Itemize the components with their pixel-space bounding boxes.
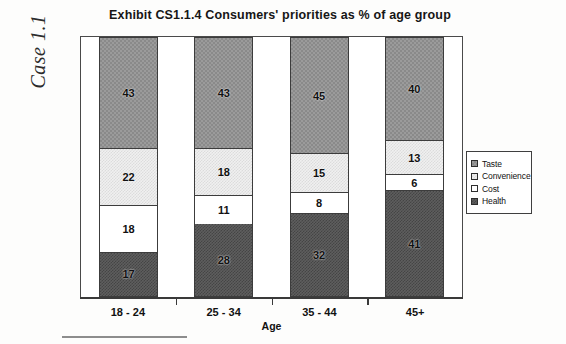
legend-swatch-icon: [471, 185, 478, 192]
x-axis-label: 25 - 34: [176, 306, 272, 318]
legend-swatch-fill: [472, 186, 477, 191]
bar-segment[interactable]: 13: [385, 140, 444, 175]
legend-swatch-icon: [471, 160, 478, 167]
bar-segment[interactable]: 40: [385, 37, 444, 141]
bars-container: 432218174318112845158324013641: [81, 37, 462, 297]
stacked-bar[interactable]: 43221817: [99, 37, 158, 297]
legend-item[interactable]: Taste: [471, 159, 528, 169]
legend-item[interactable]: Convenience: [471, 171, 528, 181]
segment-value-label: 6: [411, 177, 417, 189]
legend-label: Health: [482, 196, 506, 206]
segment-value-label: 17: [122, 268, 134, 280]
x-axis-category-labels: 18 - 2425 - 3435 - 4445+: [80, 306, 463, 318]
chart-legend: TasteConvenienceCostHealth: [466, 151, 532, 214]
segment-value-label: 15: [313, 167, 325, 179]
segment-value-label: 41: [408, 238, 420, 250]
bar-segment[interactable]: 32: [290, 213, 349, 297]
bar-segment[interactable]: 28: [194, 223, 253, 297]
legend-label: Convenience: [482, 171, 531, 181]
legend-item[interactable]: Cost: [471, 184, 528, 194]
bar-group: 43221817: [81, 37, 176, 297]
x-axis-title: Age: [80, 320, 463, 332]
bar-segment[interactable]: 11: [194, 195, 253, 225]
legend-label: Cost: [482, 184, 499, 194]
legend-swatch-fill: [472, 174, 477, 179]
bar-group: 4515832: [272, 37, 367, 297]
segment-value-label: 32: [313, 249, 325, 261]
x-axis-tick: [367, 297, 368, 305]
chart-title: Exhibit CS1.1.4 Consumers' priorities as…: [70, 8, 490, 22]
legend-item[interactable]: Health: [471, 196, 528, 206]
bar-segment[interactable]: 41: [385, 190, 444, 297]
bar-segment[interactable]: 17: [99, 252, 158, 297]
legend-swatch-icon: [471, 198, 478, 205]
legend-swatch-icon: [471, 173, 478, 180]
stacked-bar[interactable]: 4013641: [385, 37, 444, 297]
case-label: Case 1.1: [27, 0, 50, 112]
x-axis-tick: [176, 297, 177, 305]
bar-group: 4013641: [367, 37, 462, 297]
legend-swatch-fill: [472, 161, 477, 166]
x-axis-label: 18 - 24: [80, 306, 176, 318]
bar-segment[interactable]: 15: [290, 153, 349, 193]
footer-rule: [62, 336, 187, 338]
bar-segment[interactable]: 6: [385, 174, 444, 191]
bar-segment[interactable]: 22: [99, 148, 158, 206]
bar-segment[interactable]: 18: [99, 205, 158, 253]
bar-segment[interactable]: 45: [290, 37, 349, 154]
segment-value-label: 40: [408, 83, 420, 95]
legend-swatch-fill: [472, 199, 477, 204]
segment-value-label: 18: [218, 166, 230, 178]
x-axis-label: 45+: [367, 306, 463, 318]
bar-segment[interactable]: 18: [194, 148, 253, 196]
bar-group: 43181128: [176, 37, 271, 297]
segment-value-label: 43: [122, 87, 134, 99]
plot-area: 432218174318112845158324013641: [80, 36, 463, 298]
bar-segment[interactable]: 43: [99, 37, 158, 149]
stacked-bar[interactable]: 43181128: [194, 37, 253, 297]
bar-segment[interactable]: 8: [290, 192, 349, 214]
segment-value-label: 45: [313, 90, 325, 102]
segment-value-label: 22: [122, 171, 134, 183]
segment-value-label: 18: [122, 223, 134, 235]
segment-value-label: 8: [316, 197, 322, 209]
x-axis-tick: [272, 297, 273, 305]
x-axis-label: 35 - 44: [272, 306, 368, 318]
bar-segment[interactable]: 43: [194, 37, 253, 149]
stacked-bar[interactable]: 4515832: [290, 37, 349, 297]
segment-value-label: 43: [218, 87, 230, 99]
segment-value-label: 13: [408, 152, 420, 164]
legend-label: Taste: [482, 159, 502, 169]
segment-value-label: 28: [218, 254, 230, 266]
segment-value-label: 11: [218, 204, 230, 216]
